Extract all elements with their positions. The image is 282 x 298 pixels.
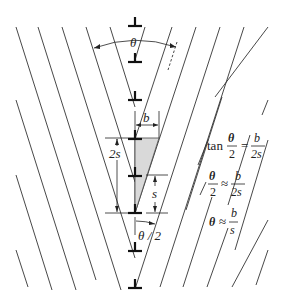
eq2-lhs-num: θ <box>209 169 216 183</box>
dislocation-icon <box>128 53 142 62</box>
equation-result: θ ≈ b s <box>209 206 238 237</box>
eq2-lhs-den: 2 <box>210 185 216 199</box>
eq1-rhs-den: 2s <box>251 147 262 161</box>
dislocation-icon <box>128 17 142 26</box>
eq3-rhs-den: s <box>230 223 235 237</box>
dislocation-icon <box>128 204 142 213</box>
s-label: s <box>152 186 157 201</box>
eq2-rhs-num: b <box>235 169 241 183</box>
equation-tan: tan θ 2 = b 2s <box>207 131 265 161</box>
eq1-lhs-den: 2 <box>229 147 235 161</box>
eq3-lhs: θ <box>209 215 216 229</box>
eq1-lhs-num: θ <box>228 131 235 145</box>
eq1-op: = <box>241 138 248 153</box>
tilt-boundary-diagram: θ b 2s s θ / 2 <box>0 0 282 298</box>
equation-small-angle: θ 2 ≈ b 2s <box>208 169 245 199</box>
b-label: b <box>143 110 150 125</box>
eq1-fn: tan <box>207 138 223 153</box>
eq1-rhs-num: b <box>254 131 260 145</box>
dislocation-icon <box>128 279 142 288</box>
two-s-label: 2s <box>109 146 121 161</box>
theta-top-label: θ <box>130 35 137 50</box>
eq2-rhs-den: 2s <box>231 185 242 199</box>
eq3-op: ≈ <box>219 214 226 229</box>
eq3-rhs-num: b <box>231 206 237 220</box>
eq2-op: ≈ <box>221 176 228 191</box>
diagram-canvas: θ b 2s s θ / 2 <box>0 0 282 298</box>
theta-half-label: θ / 2 <box>138 228 161 243</box>
right-grain-planes <box>135 27 268 289</box>
